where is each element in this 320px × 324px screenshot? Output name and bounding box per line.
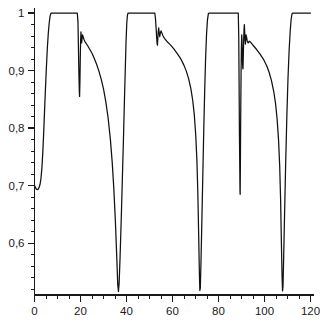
tick-group: [28, 13, 311, 302]
series-group: [35, 13, 311, 292]
x-axis-tick-label: 80: [212, 305, 225, 317]
chart-container: 0,60,70,80,91020406080100120: [0, 0, 320, 324]
y-axis-tick-label: 0,7: [9, 180, 25, 192]
tick-label-group: 0,60,70,80,91020406080100120: [9, 7, 320, 317]
x-axis-tick-label: 0: [31, 305, 37, 317]
y-axis-tick-label: 0,6: [9, 237, 25, 249]
y-axis-tick-label: 0,8: [9, 122, 25, 134]
y-axis-tick-label: 0,9: [9, 65, 25, 77]
x-axis-tick-label: 40: [120, 305, 133, 317]
x-axis-tick-label: 100: [255, 305, 274, 317]
x-axis-tick-label: 20: [74, 305, 87, 317]
data-series-line: [35, 13, 311, 292]
y-axis-tick-label: 1: [18, 7, 24, 19]
line-chart: 0,60,70,80,91020406080100120: [0, 0, 320, 324]
x-axis-tick-label: 120: [301, 305, 320, 317]
x-axis-tick-label: 60: [166, 305, 179, 317]
axis-group: [35, 8, 314, 295]
